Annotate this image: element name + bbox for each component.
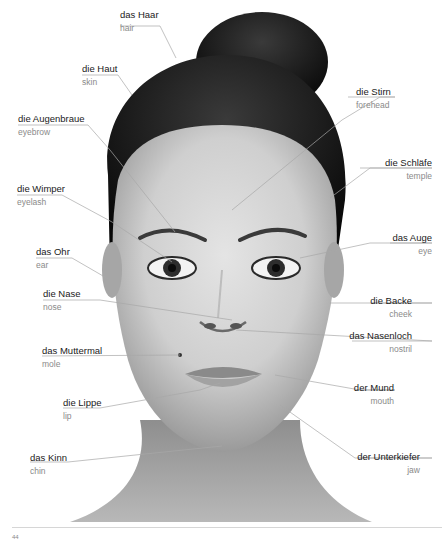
label-german: das Nasenloch [349, 331, 412, 341]
page-number: 44 [12, 534, 19, 540]
footer-divider [12, 527, 442, 528]
face-skin-shape [113, 125, 337, 452]
label-english: lip [63, 412, 102, 421]
label-eyelash: die Wimper eyelash [17, 184, 65, 206]
label-english: mole [42, 360, 102, 369]
label-english: nostril [349, 345, 412, 354]
label-english: jaw [357, 466, 420, 475]
label-english: skin [82, 78, 117, 87]
label-chin: das Kinn chin [30, 453, 67, 475]
label-english: ear [36, 261, 70, 270]
label-hair: das Haar hair [120, 10, 159, 32]
label-german: die Haut [82, 64, 117, 74]
label-ear: das Ohr ear [36, 247, 70, 269]
label-english: nose [43, 303, 81, 312]
label-temple: die Schläfe temple [385, 158, 432, 180]
label-german: das Auge [392, 233, 432, 243]
label-english: chin [30, 467, 67, 476]
label-forehead: die Stirn forehead [356, 87, 391, 109]
label-german: das Haar [120, 10, 159, 20]
ear-left-shape [102, 242, 122, 298]
label-german: der Unterkiefer [357, 452, 420, 462]
label-german: die Nase [43, 289, 81, 299]
label-mouth: der Mund mouth [354, 383, 394, 405]
label-english: mouth [354, 397, 394, 406]
face-diagram: das Haar hair die Haut skin die Augenbra… [0, 0, 442, 540]
label-german: das Ohr [36, 247, 70, 257]
label-jaw: der Unterkiefer jaw [357, 452, 420, 474]
label-german: die Backe [370, 296, 412, 306]
label-nose: die Nase nose [43, 289, 81, 311]
label-english: eyelash [17, 198, 65, 207]
label-english: cheek [370, 310, 412, 319]
label-english: eyebrow [18, 128, 85, 137]
label-german: die Lippe [63, 398, 102, 408]
label-eyebrow: die Augenbraue eyebrow [18, 114, 85, 136]
label-eye: das Auge eye [392, 233, 432, 255]
label-nostril: das Nasenloch nostril [349, 331, 412, 353]
label-german: der Mund [354, 383, 394, 393]
label-english: eye [392, 247, 432, 256]
label-english: forehead [356, 101, 391, 110]
label-german: die Stirn [356, 87, 391, 97]
label-english: temple [385, 172, 432, 181]
label-german: die Augenbraue [18, 114, 85, 124]
label-cheek: die Backe cheek [370, 296, 412, 318]
label-german: das Kinn [30, 453, 67, 463]
label-english: hair [120, 24, 159, 33]
label-mole: das Muttermal mole [42, 346, 102, 368]
label-skin: die Haut skin [82, 64, 117, 86]
label-lip: die Lippe lip [63, 398, 102, 420]
label-german: das Muttermal [42, 346, 102, 356]
label-german: die Schläfe [385, 158, 432, 168]
label-german: die Wimper [17, 184, 65, 194]
